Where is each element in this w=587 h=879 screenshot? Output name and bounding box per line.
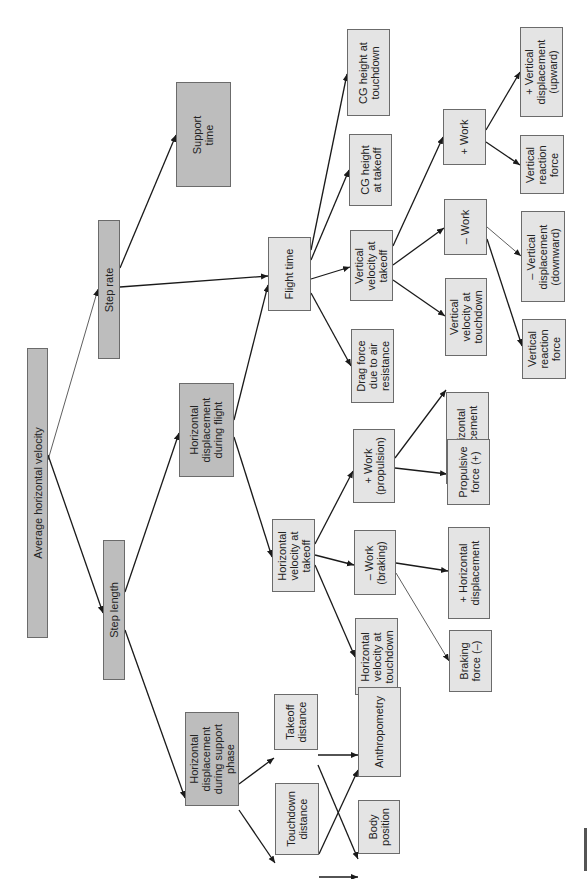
arrow-vv-takeoff-to-work-minus-v (393, 228, 444, 265)
arrow-hd-support-to-touchdown-dist (239, 810, 275, 863)
arrow-flight-time-to-cg-takeoff (311, 170, 349, 260)
node-step-rate: Step rate (98, 220, 120, 359)
node-braking-force: Braking force (–) (449, 630, 492, 692)
node-vv-touchdown: Vertical velocity at touchdown (445, 278, 487, 356)
arrow-avg-h-vel-to-step-length (48, 455, 103, 613)
node-label: Support time (192, 115, 216, 154)
node-support-time: Support time (176, 82, 231, 187)
node-avg-h-vel: Average horizontal velocity (27, 348, 48, 638)
arrow-work-brake-to-braking-force (396, 573, 449, 661)
arrow-work-plus-v-to-vrf-1 (486, 142, 520, 165)
node-label: Horizontal displacement during support p… (188, 724, 236, 794)
diagram-canvas: Average horizontal velocityStep rateStep… (0, 0, 587, 879)
node-label: Vertical velocity at takeoff (354, 241, 390, 290)
node-vv-takeoff: Vertical velocity at takeoff (350, 230, 393, 301)
node-drag: Drag force due to air resistance (351, 329, 394, 403)
node-label: Braking force (–) (459, 641, 483, 682)
node-work-prop: + Work (propulsion) (353, 429, 395, 503)
arrow-work-prop-to-plus-hd-1 (395, 390, 446, 458)
arrow-hv-takeoff-to-hv-touchdown (315, 565, 355, 657)
node-flight-time: Flight time (268, 237, 311, 311)
arrow-vv-takeoff-to-vv-touchdown (393, 280, 445, 316)
node-label: Vertical reaction force (524, 145, 560, 184)
arrow-hd-flight-to-flight-time (234, 285, 268, 420)
arrow-flight-time-to-cg-touchdown (311, 74, 347, 250)
node-label: Vertical velocity at touchdown (448, 290, 484, 343)
node-label: + Horizontal displacement (457, 541, 481, 606)
node-label: Anthropometry (374, 696, 386, 768)
node-plus-hd-2: + Horizontal displacement (448, 527, 490, 619)
arrow-work-brake-to-plus-hd-2 (396, 563, 448, 571)
arrow-flight-time-to-vv-takeoff (311, 267, 350, 279)
node-step-length: Step length (103, 540, 125, 680)
node-work-brake: – Work (braking) (354, 530, 396, 595)
node-cg-takeoff: CG height at takeoff (349, 134, 392, 206)
node-label: Step rate (103, 267, 115, 312)
node-label: – Work (459, 210, 471, 245)
node-label: + Vertical displacement (upward) (524, 40, 560, 105)
arrow-work-prop-to-propulsive-force (395, 468, 447, 474)
node-label: + Work (propulsion) (362, 437, 386, 495)
arrow-work-minus-v-to-minus-vd-down (487, 227, 521, 256)
node-plus-vd-up: + Vertical displacement (upward) (520, 27, 563, 117)
node-touchdown-dist: Touchdown distance (275, 783, 319, 855)
node-label: Drag force due to air resistance (355, 340, 391, 391)
node-label: – Work (braking) (363, 541, 387, 584)
node-vrf-2: Vertical reaction force (522, 319, 566, 379)
arrow-step-rate-to-flight-time (120, 276, 268, 287)
node-label: Horizontal displacement during flight (189, 398, 225, 463)
node-label: + Work (458, 120, 470, 155)
arrow-step-length-to-hd-support (125, 630, 185, 798)
arrow-hv-takeoff-to-work-brake (315, 555, 354, 565)
node-label: Step length (108, 582, 120, 638)
arrow-hd-flight-to-hv-takeoff (234, 437, 272, 557)
arrow-flight-time-to-drag (311, 293, 351, 366)
node-minus-vd-down: – Vertical displacement (downward) (521, 211, 565, 302)
node-body-position: Body position (358, 800, 400, 854)
node-takeoff-dist: Takeoff distance (274, 694, 318, 750)
arrow-work-plus-v-to-plus-vd-up (486, 72, 520, 130)
arrow-step-length-to-hd-flight (125, 433, 179, 592)
node-hd-flight: Horizontal displacement during flight (179, 383, 234, 477)
node-label: Takeoff distance (284, 702, 308, 743)
node-work-minus-v: – Work (444, 199, 487, 255)
arrow-work-minus-v-to-vrf-2 (487, 239, 522, 346)
node-label: Horizontal velocity at touchdown (359, 630, 395, 683)
node-anthropometry: Anthropometry (358, 687, 401, 777)
node-label: Horizontal velocity at takeoff (276, 531, 312, 581)
node-label: Vertical reaction force (526, 329, 562, 368)
node-label: – Vertical displacement (downward) (525, 224, 561, 289)
arrow-vv-takeoff-to-work-plus-v (393, 137, 443, 246)
node-propulsive-force: Propulsive force (+) (447, 439, 490, 505)
node-label: Body position (367, 808, 391, 846)
node-label: Touchdown distance (285, 791, 309, 847)
node-cg-touchdown: CG height at touchdown (347, 29, 390, 116)
node-label: Flight time (284, 249, 296, 300)
node-hd-support: Horizontal displacement during support p… (185, 712, 239, 806)
node-label: CG height at touchdown (357, 42, 381, 104)
node-label: Average horizontal velocity (32, 427, 44, 558)
arrow-hd-support-to-takeoff-dist (239, 758, 274, 784)
node-work-plus-v: + Work (443, 109, 486, 165)
node-label: Propulsive force (+) (457, 446, 481, 497)
arrow-avg-h-vel-to-step-rate (48, 289, 98, 460)
node-label: CG height at takeoff (359, 145, 383, 195)
node-hv-touchdown: Horizontal velocity at touchdown (355, 618, 398, 695)
arrow-hv-takeoff-to-work-prop (315, 471, 353, 544)
arrow-step-rate-to-support-time (120, 135, 176, 268)
node-hv-takeoff: Horizontal velocity at takeoff (272, 519, 315, 592)
node-vrf-1: Vertical reaction force (520, 135, 564, 194)
